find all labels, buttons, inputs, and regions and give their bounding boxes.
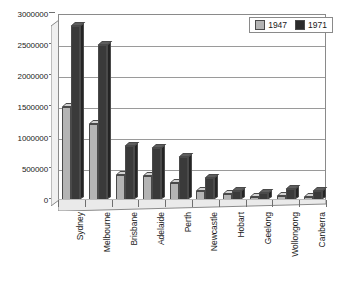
bar-face [143, 176, 152, 200]
y-axis-tick-label: 0 [44, 196, 48, 205]
x-axis-label-melbourne: Melbourne [102, 212, 112, 252]
bar-side [107, 42, 111, 199]
legend-swatch-1971 [295, 20, 305, 30]
bar-side [80, 23, 84, 199]
bar-group [299, 14, 326, 200]
y-axis-tick-label: 500000 [22, 165, 48, 174]
legend-item-1971[interactable]: 1971 [295, 20, 327, 30]
x-axis-label-perth: Perth [183, 212, 193, 232]
bar-group [272, 14, 299, 200]
x-axis-tick-mark [165, 200, 166, 207]
bar-side [134, 143, 138, 199]
bar-perth-1971 [179, 157, 188, 200]
bar-group [85, 14, 112, 200]
bar-group [219, 14, 246, 200]
x-axis-label-newcastle: Newcastle [209, 212, 219, 251]
x-axis-tick-mark [58, 200, 59, 207]
x-axis-tick-mark [246, 200, 247, 207]
legend-swatch-1947 [255, 20, 265, 30]
bar-newcastle-1971 [205, 178, 214, 200]
bar-brisbane-1947 [116, 175, 125, 200]
bar-face [152, 148, 161, 200]
y-axis-tick-label: 1000000 [18, 134, 48, 143]
x-axis-tick-mark [85, 200, 86, 207]
bar-side [214, 175, 218, 200]
x-axis-label-adelaide: Adelaide [156, 212, 166, 245]
x-axis-tick-mark [299, 200, 300, 207]
bar-group [58, 14, 85, 200]
legend-label-1971: 1971 [308, 20, 327, 30]
bar-adelaide-1947 [143, 176, 152, 200]
x-axis-tick-mark [326, 200, 327, 207]
bar-face [205, 178, 214, 200]
y-axis-tick-label: 1500000 [18, 103, 48, 112]
bar-face [71, 26, 80, 200]
chart-legend: 19471971 [249, 17, 333, 33]
bar-face [89, 124, 98, 200]
bar-brisbane-1971 [125, 146, 134, 200]
x-axis-tick-mark [138, 200, 139, 207]
bar-group [112, 14, 139, 200]
x-axis-tick-mark [192, 200, 193, 207]
y-axis-tick-label: 2500000 [18, 41, 48, 50]
bar-sydney-1971 [71, 26, 80, 200]
bar-group [165, 14, 192, 200]
bar-group [246, 14, 273, 200]
x-axis: SydneyMelbourneBrisbaneAdelaidePerthNewc… [58, 200, 326, 283]
bar-melbourne-1971 [98, 45, 107, 200]
x-axis-label-sydney: Sydney [75, 212, 85, 240]
bar-side [161, 145, 165, 199]
y-axis-tick-label: 2000000 [18, 72, 48, 81]
legend-item-1947[interactable]: 1947 [255, 20, 287, 30]
x-axis-label-wollongong: Wollongong [290, 212, 300, 257]
bar-adelaide-1971 [152, 148, 161, 200]
y-axis-tick-mark [49, 12, 55, 13]
x-axis-tick-mark [272, 200, 273, 207]
bar-face [98, 45, 107, 200]
bar-face [170, 183, 179, 200]
x-axis-label-hobart: Hobart [236, 212, 246, 238]
y-axis-tick-label: 3000000 [18, 10, 48, 19]
bar-melbourne-1947 [89, 124, 98, 200]
x-axis-label-geelong: Geelong [263, 212, 273, 244]
bar-sydney-1947 [62, 107, 71, 200]
bar-group [192, 14, 219, 200]
bar-face [62, 107, 71, 200]
bar-group [138, 14, 165, 200]
bar-series-container [58, 14, 326, 200]
bar-face [179, 157, 188, 200]
bar-perth-1947 [170, 183, 179, 200]
legend-label-1947: 1947 [268, 20, 287, 30]
bar-face [125, 146, 134, 200]
x-axis-tick-mark [112, 200, 113, 207]
x-axis-tick-mark [219, 200, 220, 207]
x-axis-label-brisbane: Brisbane [129, 212, 139, 246]
bar-chart: 0500000100000015000002000000250000030000… [0, 0, 343, 283]
bar-face [116, 175, 125, 200]
y-axis: 0500000100000015000002000000250000030000… [0, 0, 58, 200]
x-axis-label-canberra: Canberra [317, 212, 327, 247]
bar-side [188, 154, 192, 199]
